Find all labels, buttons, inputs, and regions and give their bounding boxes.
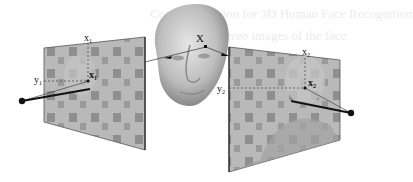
object-point-icon <box>204 45 207 48</box>
left-axis-x-label: x1 <box>84 32 92 44</box>
right-image-plane <box>229 47 340 172</box>
right-camera-center-icon <box>348 110 354 116</box>
object-point-label: X <box>196 32 204 44</box>
right-projected-point-icon <box>303 86 306 89</box>
left-camera-center-icon <box>19 98 25 104</box>
right-axis-y-label: y2 <box>217 83 225 95</box>
right-axis-x-label: x2 <box>302 46 310 58</box>
left-axis-y-label: y1 <box>34 74 42 86</box>
